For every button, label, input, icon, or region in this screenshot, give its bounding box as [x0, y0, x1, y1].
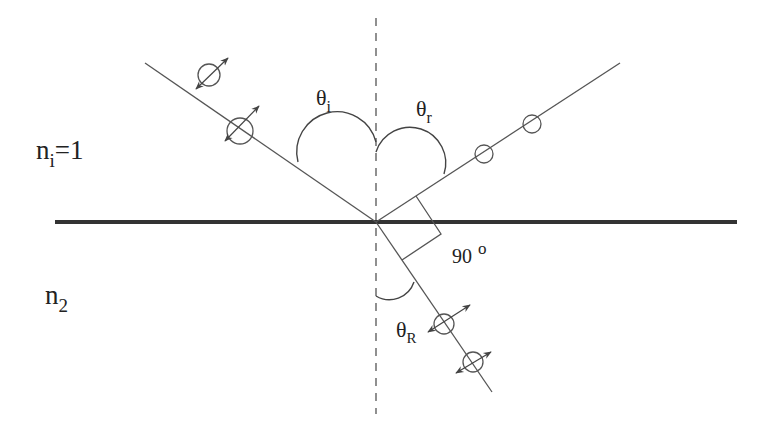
lower-medium-label: n2 — [45, 280, 68, 316]
reflection-diagram: ni=1 n2 θi θr θR 90o — [0, 0, 772, 439]
right-angle-label: 90o — [452, 239, 487, 267]
incident-polarization-1 — [196, 58, 228, 89]
reflected-polarization-1 — [475, 145, 493, 163]
refracted-ray — [376, 222, 492, 392]
incident-angle-label: θi — [316, 85, 332, 115]
incident-angle-arc — [297, 112, 376, 162]
reflected-ray — [376, 63, 620, 222]
refracted-polarization-2 — [456, 352, 491, 373]
refracted-angle-label: θR — [396, 317, 417, 346]
upper-medium-label: ni=1 — [36, 135, 84, 171]
right-angle-marker — [402, 196, 441, 260]
refracted-angle-arc — [376, 282, 414, 300]
reflected-angle-label: θr — [416, 96, 433, 126]
reflected-angle-arc — [376, 127, 446, 174]
incident-ray — [145, 63, 376, 222]
